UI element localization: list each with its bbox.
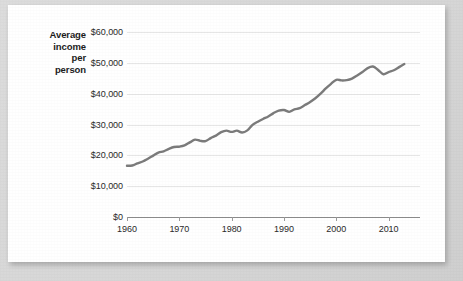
- x-axis-tick: [336, 217, 337, 221]
- y-axis-tick-label: $30,000: [91, 120, 123, 130]
- y-axis-tick-label: $10,000: [91, 181, 123, 191]
- x-axis-tick-label: 1980: [222, 224, 242, 234]
- x-axis-tick-label: 1970: [169, 224, 189, 234]
- series-path: [127, 64, 404, 166]
- y-axis-tick-label: $20,000: [91, 150, 123, 160]
- income-line-series: [127, 32, 420, 217]
- x-axis-tick-label: 1990: [274, 224, 294, 234]
- x-axis-tick-label: 2000: [326, 224, 346, 234]
- x-axis-tick: [389, 217, 390, 221]
- x-axis-tick: [179, 217, 180, 221]
- chart-card: Average income per person $60,000$50,000…: [8, 5, 445, 262]
- x-axis-line: [127, 217, 420, 218]
- x-axis-tick: [232, 217, 233, 221]
- y-axis-tick-labels: $60,000$50,000$40,000$30,000$20,000$10,0…: [63, 32, 123, 217]
- y-axis-tick-label: $40,000: [91, 89, 123, 99]
- y-axis-tick-label: $0: [113, 212, 123, 222]
- x-axis-tick: [127, 217, 128, 221]
- x-axis-tick-label: 2010: [379, 224, 399, 234]
- y-axis-tick-label: $50,000: [91, 58, 123, 68]
- page-background: Average income per person $60,000$50,000…: [0, 0, 463, 281]
- x-axis-tick: [284, 217, 285, 221]
- line-chart: Average income per person $60,000$50,000…: [8, 5, 445, 262]
- y-axis-tick-label: $60,000: [91, 27, 123, 37]
- x-axis-tick-label: 1960: [117, 224, 137, 234]
